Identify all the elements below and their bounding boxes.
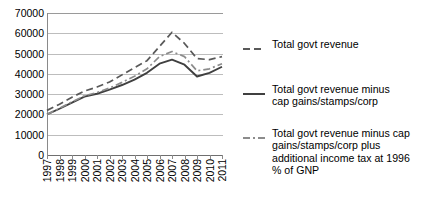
chart-container: 010000200003000040000500006000070000 199… (0, 0, 423, 218)
legend-item-3[interactable]: Total govt revenue minus cap gains/stamp… (243, 127, 410, 177)
x-axis-tick-label: 2008 (180, 159, 190, 182)
y-axis-labels: 010000200003000040000500006000070000 (0, 0, 44, 160)
x-axis-tick (85, 155, 86, 159)
x-axis-tick-label: 2001 (92, 159, 102, 182)
y-axis-tick-label: 20000 (15, 109, 44, 119)
series-line-3 (47, 52, 222, 115)
legend-sample-dashdot (243, 130, 265, 142)
legend-sample-dashed (243, 41, 265, 53)
x-axis-tick (60, 155, 61, 159)
x-axis-tick (110, 155, 111, 159)
x-axis-tick (72, 155, 73, 159)
y-axis-tick-label: 30000 (15, 89, 44, 99)
x-axis-tick (185, 155, 186, 159)
legend-sample-solid (243, 86, 265, 98)
chart-legend: Total govt revenueTotal govt revenue min… (243, 0, 423, 218)
x-axis-tick-label: 2010 (205, 159, 215, 182)
y-axis-tick-label: 10000 (15, 130, 44, 140)
x-axis-tick (147, 155, 148, 159)
legend-label-2: Total govt revenue minus cap gains/stamp… (272, 83, 390, 108)
legend-label-1: Total govt revenue (272, 38, 359, 50)
x-axis-labels: 1997199819992000200120022003200420052006… (47, 159, 227, 217)
y-axis-tick-label: 70000 (15, 8, 44, 18)
x-axis-tick (222, 155, 223, 159)
series-layer (47, 13, 222, 155)
y-axis-tick-label: 50000 (15, 49, 44, 59)
x-axis-tick (97, 155, 98, 159)
x-axis-tick (160, 155, 161, 159)
x-axis-tick (135, 155, 136, 159)
x-axis-tick-label: 2003 (117, 159, 127, 182)
series-line-2 (47, 60, 222, 115)
x-axis-tick-label: 2007 (167, 159, 177, 182)
x-axis-tick-label: 2004 (130, 159, 140, 182)
x-axis-tick-label: 2000 (80, 159, 90, 182)
x-axis-tick-label: 2005 (142, 159, 152, 182)
x-axis-tick-label: 2002 (105, 159, 115, 182)
legend-label-3: Total govt revenue minus cap gains/stamp… (272, 127, 410, 177)
x-axis-tick-label: 2006 (155, 159, 165, 182)
plot-wrapper: 010000200003000040000500006000070000 199… (0, 0, 240, 218)
x-axis-tick (47, 155, 48, 159)
x-axis-tick-label: 1999 (67, 159, 77, 182)
x-axis-tick (197, 155, 198, 159)
series-line-1 (47, 32, 222, 110)
x-axis-tick-label: 2009 (192, 159, 202, 182)
x-axis-tick-label: 1998 (55, 159, 65, 182)
legend-item-1[interactable]: Total govt revenue (243, 38, 359, 53)
x-axis-tick (122, 155, 123, 159)
x-axis-tick (172, 155, 173, 159)
y-axis-tick-label: 40000 (15, 69, 44, 79)
legend-item-2[interactable]: Total govt revenue minus cap gains/stamp… (243, 83, 390, 108)
y-axis-tick-label: 60000 (15, 28, 44, 38)
x-axis-tick-label: 2011 (217, 159, 227, 182)
x-axis-tick (210, 155, 211, 159)
x-axis-tick-label: 1997 (42, 159, 52, 182)
